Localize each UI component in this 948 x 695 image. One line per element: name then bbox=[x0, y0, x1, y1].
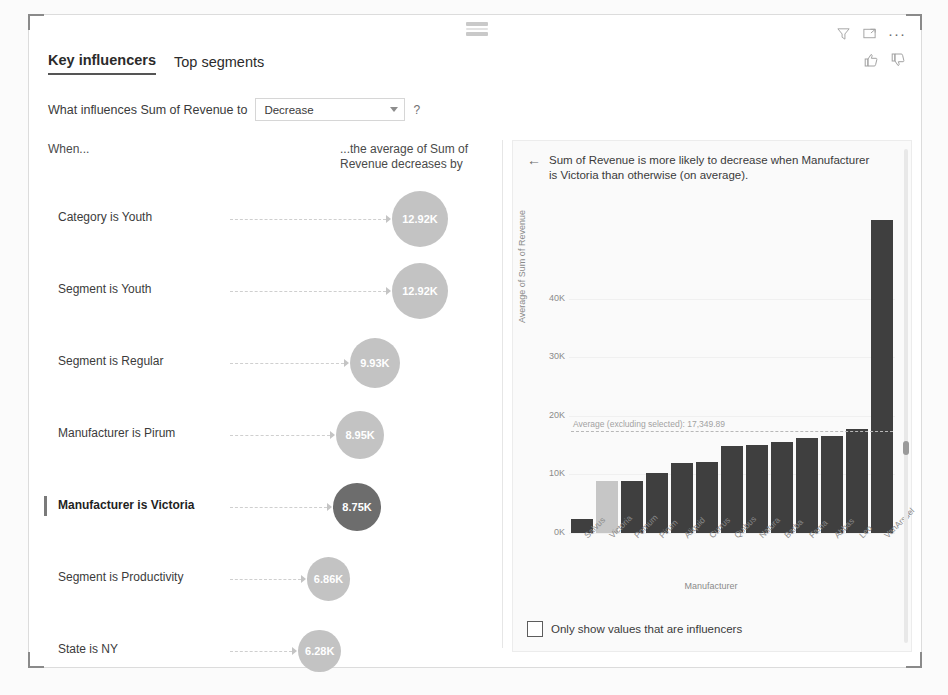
plot-area: Average (excluding selected): 17,349.89 bbox=[571, 211, 893, 533]
influencer-row[interactable]: State is NY6.28K bbox=[40, 618, 495, 690]
thumbs-up-icon[interactable] bbox=[863, 52, 879, 68]
influencer-label: State is NY bbox=[58, 642, 118, 656]
column-header-when: When... bbox=[48, 142, 89, 156]
back-arrow-icon[interactable]: ← bbox=[527, 153, 541, 183]
influencer-bubble[interactable]: 8.95K bbox=[336, 411, 384, 459]
more-options-icon[interactable]: ··· bbox=[888, 29, 906, 39]
y-axis-tick-label: 10K bbox=[539, 468, 565, 478]
header-icon-group: ··· bbox=[836, 26, 906, 41]
panel-divider bbox=[502, 140, 503, 648]
connector-arrow-icon bbox=[344, 359, 349, 367]
x-axis-tick: Fama bbox=[796, 531, 818, 571]
tab-key-influencers[interactable]: Key influencers bbox=[48, 52, 156, 75]
tab-top-segments[interactable]: Top segments bbox=[174, 54, 264, 75]
x-axis-title: Manufacturer bbox=[521, 581, 901, 591]
influencer-bubble[interactable]: 12.92K bbox=[392, 263, 448, 319]
x-axis-tick: Victoria bbox=[596, 531, 618, 571]
frame-corner-top-left bbox=[28, 14, 44, 30]
analysis-type-value: Decrease bbox=[264, 104, 313, 116]
x-axis-labels: SalvusVictoriaPomumPirumAliquidCurrusQui… bbox=[571, 531, 893, 571]
chevron-down-icon bbox=[390, 107, 398, 112]
selection-indicator bbox=[44, 496, 47, 516]
feedback-icon-group bbox=[863, 52, 906, 68]
detail-panel: ← Sum of Revenue is more likely to decre… bbox=[512, 140, 912, 652]
question-prefix: What influences Sum of Revenue to bbox=[48, 103, 247, 117]
average-reference-label: Average (excluding selected): 17,349.89 bbox=[573, 419, 725, 429]
average-reference-line bbox=[571, 431, 893, 432]
detail-scrollbar-thumb[interactable] bbox=[903, 441, 909, 455]
detail-title: Sum of Revenue is more likely to decreas… bbox=[549, 153, 877, 183]
detail-bar-chart: Average of Sum of Revenue 0K10K20K30K40K… bbox=[521, 203, 901, 593]
connector-line bbox=[230, 579, 301, 581]
connector-line bbox=[230, 363, 344, 365]
influencer-row[interactable]: Manufacturer is Victoria8.75K bbox=[40, 474, 495, 546]
x-axis-tick: Pomum bbox=[621, 531, 643, 571]
analysis-type-dropdown[interactable]: Decrease bbox=[255, 98, 405, 121]
only-influencers-checkbox[interactable] bbox=[527, 621, 543, 637]
frame-corner-bottom-right bbox=[906, 652, 922, 668]
influencer-row[interactable]: Segment is Productivity6.86K bbox=[40, 546, 495, 618]
influencers-panel: When... ...the average of Sum of Revenue… bbox=[40, 138, 495, 650]
influencer-row[interactable]: Category is Youth12.92K bbox=[40, 186, 495, 258]
x-axis-tick: Natura bbox=[746, 531, 768, 571]
only-influencers-label: Only show values that are influencers bbox=[551, 623, 742, 635]
y-axis-title: Average of Sum of Revenue bbox=[517, 210, 527, 323]
detail-scrollbar-track[interactable] bbox=[904, 149, 908, 643]
connector-arrow-icon bbox=[386, 287, 391, 295]
influencer-bubble[interactable]: 6.28K bbox=[298, 630, 341, 673]
column-header-average: ...the average of Sum of Revenue decreas… bbox=[340, 142, 490, 172]
x-axis-tick: Abbas bbox=[821, 531, 843, 571]
tab-bar: Key influencers Top segments bbox=[48, 52, 264, 75]
connector-line bbox=[230, 219, 386, 221]
only-influencers-checkbox-row[interactable]: Only show values that are influencers bbox=[527, 621, 742, 637]
focus-mode-icon[interactable] bbox=[862, 26, 877, 41]
thumbs-down-icon[interactable] bbox=[890, 52, 906, 68]
influencer-bubble[interactable]: 9.93K bbox=[350, 338, 400, 388]
x-axis-tick: Salvus bbox=[571, 531, 593, 571]
bar-series bbox=[571, 211, 893, 533]
x-axis-tick: Leo bbox=[846, 531, 868, 571]
y-axis-tick-label: 40K bbox=[539, 293, 565, 303]
connector-arrow-icon bbox=[386, 215, 391, 223]
y-axis-tick-label: 0K bbox=[539, 527, 565, 537]
detail-header: ← Sum of Revenue is more likely to decre… bbox=[527, 153, 877, 183]
influencer-bubble[interactable]: 12.92K bbox=[392, 191, 448, 247]
influencer-label: Segment is Youth bbox=[58, 282, 151, 296]
influencer-list: Category is Youth12.92KSegment is Youth1… bbox=[40, 186, 495, 690]
y-axis-tick-label: 30K bbox=[539, 351, 565, 361]
influencer-label: Manufacturer is Pirum bbox=[58, 426, 175, 440]
connector-arrow-icon bbox=[292, 647, 297, 655]
connector-line bbox=[230, 507, 327, 509]
y-axis-tick-label: 20K bbox=[539, 410, 565, 420]
influencer-bubble[interactable]: 6.86K bbox=[307, 557, 351, 601]
influencer-label: Manufacturer is Victoria bbox=[58, 498, 195, 512]
help-icon[interactable]: ? bbox=[413, 103, 420, 117]
connector-line bbox=[230, 651, 292, 653]
drag-handle[interactable] bbox=[466, 22, 488, 34]
connector-line bbox=[230, 435, 330, 437]
question-row: What influences Sum of Revenue to Decrea… bbox=[48, 98, 420, 121]
influencer-bubble[interactable]: 8.75K bbox=[333, 483, 381, 531]
x-axis-tick: Currus bbox=[696, 531, 718, 571]
influencer-row[interactable]: Segment is Regular9.93K bbox=[40, 330, 495, 402]
x-axis-tick: Aliquid bbox=[671, 531, 693, 571]
connector-arrow-icon bbox=[330, 431, 335, 439]
bar[interactable] bbox=[871, 220, 893, 533]
connector-line bbox=[230, 291, 386, 293]
influencer-label: Segment is Productivity bbox=[58, 570, 183, 584]
filter-icon[interactable] bbox=[836, 26, 851, 41]
x-axis-tick: Quibus bbox=[721, 531, 743, 571]
influencer-row[interactable]: Manufacturer is Pirum8.95K bbox=[40, 402, 495, 474]
x-axis-tick: Barba bbox=[771, 531, 793, 571]
connector-arrow-icon bbox=[327, 503, 332, 511]
connector-arrow-icon bbox=[301, 575, 306, 583]
influencer-label: Segment is Regular bbox=[58, 354, 163, 368]
influencer-row[interactable]: Segment is Youth12.92K bbox=[40, 258, 495, 330]
screenshot-page: ··· Key influencers Top segments What in… bbox=[0, 0, 948, 695]
x-axis-tick: VanArsdel bbox=[871, 531, 893, 571]
x-axis-tick: Pirum bbox=[646, 531, 668, 571]
frame-corner-top-right bbox=[906, 14, 922, 30]
influencer-label: Category is Youth bbox=[58, 210, 152, 224]
